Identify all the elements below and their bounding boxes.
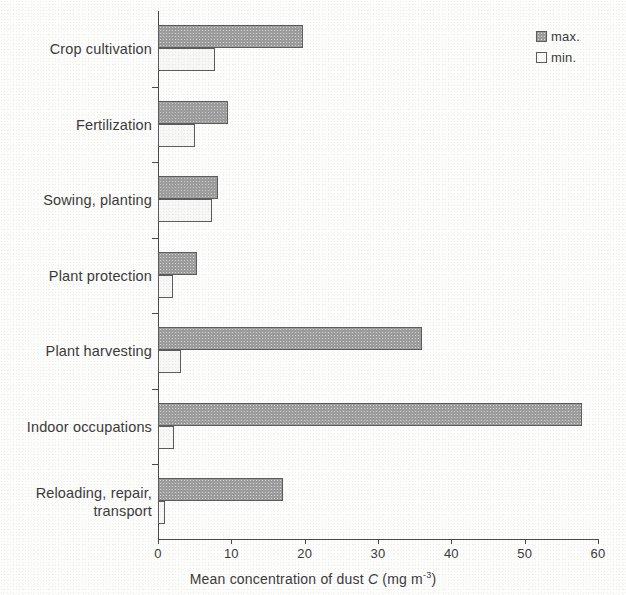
x-axis-title-unit-close: ) <box>431 571 436 587</box>
bar-group <box>158 389 598 465</box>
bar-group <box>158 11 598 87</box>
legend-label-max: max. <box>551 29 580 44</box>
x-axis-tick <box>378 539 379 544</box>
bar-min <box>158 426 174 449</box>
bar-max <box>158 327 422 350</box>
y-axis-tick <box>152 464 158 465</box>
x-axis-tick-label: 50 <box>505 546 545 561</box>
category-label: Plant harvesting <box>0 342 152 360</box>
bar-max <box>158 25 303 48</box>
y-axis-tick <box>152 162 158 163</box>
bar-max <box>158 403 582 426</box>
x-axis-tick <box>598 539 599 544</box>
x-axis-tick-label: 0 <box>138 546 178 561</box>
category-label: Fertilization <box>0 116 152 134</box>
y-axis-tick <box>152 238 158 239</box>
bar-max <box>158 478 283 501</box>
x-axis-title-prefix: Mean concentration of dust <box>190 571 368 587</box>
legend: max. min. <box>536 26 580 68</box>
x-axis-tick <box>158 539 159 544</box>
x-axis-tick-label: 40 <box>431 546 471 561</box>
x-axis-tick-label: 20 <box>285 546 325 561</box>
x-axis-tick-label: 30 <box>358 546 398 561</box>
bar-min <box>158 275 173 298</box>
x-axis-title-unit-open: (mg m <box>378 571 423 587</box>
bar-group <box>158 313 598 389</box>
bar-min <box>158 48 215 71</box>
bar-max <box>158 101 228 124</box>
plot-area <box>158 11 598 540</box>
bar-min <box>158 199 212 222</box>
category-label: Plant protection <box>0 267 152 285</box>
x-axis-title: Mean concentration of dust C (mg m-3) <box>0 570 626 587</box>
legend-swatch-min-icon <box>536 52 547 63</box>
x-axis-tick-label: 10 <box>211 546 251 561</box>
x-axis-tick <box>305 539 306 544</box>
x-axis-tick <box>451 539 452 544</box>
x-axis-tick <box>231 539 232 544</box>
category-label: Sowing, planting <box>0 191 152 209</box>
y-axis-tick <box>152 313 158 314</box>
bar-min <box>158 350 181 373</box>
category-label: Crop cultivation <box>0 40 152 58</box>
y-axis-tick <box>152 87 158 88</box>
x-axis-tick-label: 60 <box>578 546 618 561</box>
x-axis-title-symbol: C <box>368 571 378 587</box>
bar-group <box>158 87 598 163</box>
y-axis-tick <box>152 389 158 390</box>
legend-entry-max: max. <box>536 26 580 47</box>
bar-group <box>158 162 598 238</box>
bar-max <box>158 176 218 199</box>
category-label: Reloading, repair, transport <box>0 484 152 520</box>
bar-min <box>158 501 165 524</box>
legend-label-min: min. <box>551 50 576 65</box>
bar-min <box>158 124 195 147</box>
bar-max <box>158 252 197 275</box>
legend-swatch-max-icon <box>536 31 547 42</box>
bar-group <box>158 238 598 314</box>
x-axis-tick <box>525 539 526 544</box>
bar-group <box>158 464 598 540</box>
category-label: Indoor occupations <box>0 418 152 436</box>
legend-entry-min: min. <box>536 47 580 68</box>
dust-concentration-bar-chart: Crop cultivationFertilizationSowing, pla… <box>0 0 626 595</box>
